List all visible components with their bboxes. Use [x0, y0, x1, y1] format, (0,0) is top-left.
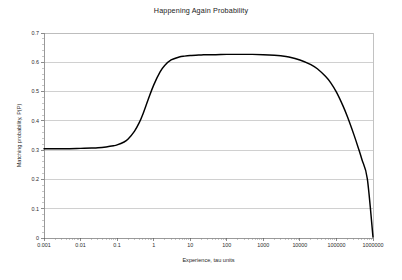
gridlines	[44, 33, 373, 209]
x-tick-label: 100	[222, 242, 231, 248]
y-tick-label: 0	[36, 235, 39, 241]
x-tick-label: 100000	[327, 242, 345, 248]
x-tick-label: 1000000	[363, 242, 384, 248]
x-tick-label: 10000	[292, 242, 307, 248]
y-tick-label: 0.6	[32, 59, 40, 65]
chart-plot-area: 0.0010.010.11101001000100001000001000000…	[0, 0, 402, 280]
x-axis-ticks	[44, 238, 373, 241]
plot-frame	[44, 33, 373, 238]
x-tick-label: 0.01	[75, 242, 86, 248]
x-tick-label: 1	[152, 242, 155, 248]
x-tick-label: 0.1	[113, 242, 121, 248]
y-tick-label: 0.4	[32, 118, 40, 124]
y-tick-label: 0.5	[32, 88, 40, 94]
y-axis-label: Matching probability, P(P)	[16, 104, 22, 168]
y-tick-label: 0.3	[32, 147, 40, 153]
x-axis-label: Experience, tau units	[182, 257, 234, 263]
y-tick-label: 0.1	[32, 206, 40, 212]
data-series-line	[44, 54, 373, 237]
x-axis-tick-labels: 0.0010.010.11101001000100001000001000000	[37, 242, 383, 248]
x-tick-label: 0.001	[37, 242, 51, 248]
x-tick-label: 1000	[257, 242, 269, 248]
y-axis-ticks	[41, 33, 44, 238]
x-tick-label: 10	[187, 242, 193, 248]
y-tick-label: 0.7	[32, 30, 40, 36]
y-tick-label: 0.2	[32, 176, 40, 182]
chart-container: Happening Again Probability 0.0010.010.1…	[0, 0, 402, 280]
y-axis-tick-labels: 00.10.20.30.40.50.60.7	[32, 30, 40, 241]
